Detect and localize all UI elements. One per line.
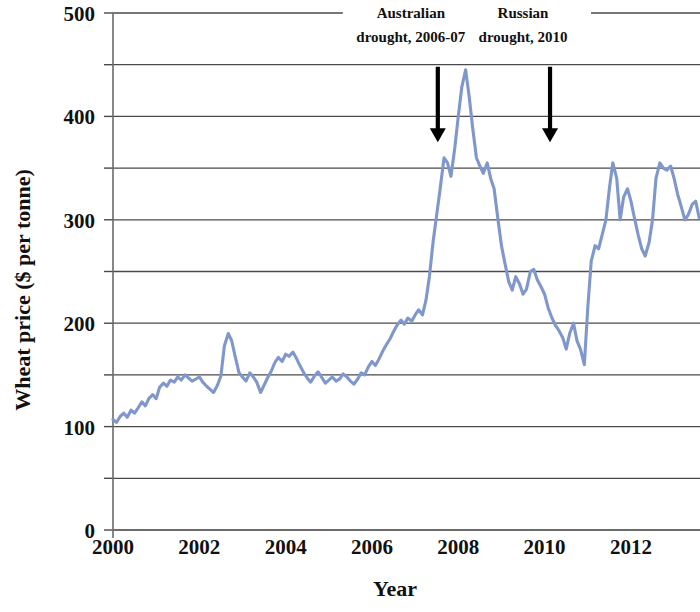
x-tick-label: 2002	[178, 535, 220, 559]
x-tick-label: 2012	[610, 535, 652, 559]
annotation-label-line1: Australian	[377, 5, 446, 21]
annotation-label-line1: Russian	[498, 5, 550, 21]
y-tick-label: 200	[64, 312, 96, 336]
wheat-price-chart: 0100200300400500 20002002200420062008201…	[0, 0, 700, 612]
y-axis-title: Wheat price ($ per tonne)	[10, 169, 35, 411]
annotation-label-line2: drought, 2006-07	[356, 29, 465, 45]
x-tick-label: 2004	[265, 535, 308, 559]
x-tick-label: 2000	[92, 535, 134, 559]
x-tick-label: 2010	[524, 535, 566, 559]
x-tick-label: 2008	[437, 535, 479, 559]
y-tick-label: 400	[64, 105, 96, 129]
y-tick-label: 500	[64, 2, 96, 26]
chart-canvas: 0100200300400500 20002002200420062008201…	[0, 0, 700, 612]
x-axis-title: Year	[373, 576, 417, 601]
x-tick-label: 2006	[351, 535, 393, 559]
chart-background	[0, 0, 700, 612]
y-tick-label: 300	[64, 209, 96, 233]
y-tick-label: 100	[64, 416, 96, 440]
annotation-label-line2: drought, 2010	[479, 29, 568, 45]
